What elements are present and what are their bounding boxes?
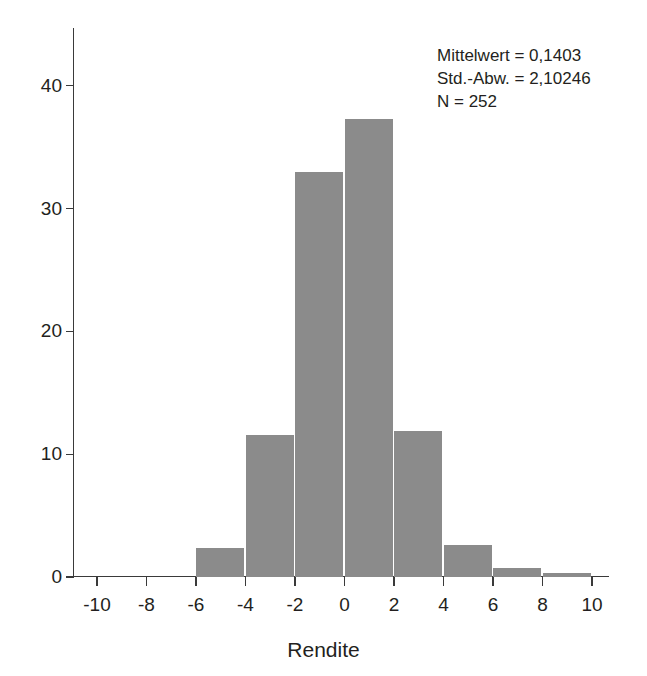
- x-axis-tick: [195, 577, 196, 586]
- x-axis-tick: [146, 577, 147, 586]
- y-axis-tick-label: 40: [41, 76, 62, 95]
- x-axis-tick-label: -10: [83, 594, 110, 616]
- x-axis-tick: [245, 577, 246, 586]
- y-axis-tick: [66, 208, 74, 209]
- histogram-bar: [345, 119, 393, 577]
- y-axis-tick-label: 0: [51, 567, 62, 586]
- std-dev-label: Std.-Abw. = 2,10246: [437, 67, 591, 90]
- x-axis-tick: [591, 577, 592, 586]
- x-axis-tick-label: 8: [537, 594, 548, 616]
- x-axis-tick-label: -4: [237, 594, 254, 616]
- x-axis-tick: [393, 577, 394, 586]
- histogram-bar: [196, 548, 244, 577]
- x-axis-tick: [344, 577, 345, 586]
- histogram-bar: [493, 568, 541, 577]
- y-axis-tick-label: 10: [41, 444, 62, 463]
- histogram-bar: [246, 435, 294, 577]
- histogram-bar: [543, 573, 591, 577]
- histogram-bar: [394, 431, 442, 577]
- x-axis-tick: [542, 577, 543, 586]
- statistics-annotation: Mittelwert = 0,1403 Std.-Abw. = 2,10246 …: [437, 44, 591, 113]
- x-axis-tick: [294, 577, 295, 586]
- x-axis-tick-label: -8: [138, 594, 155, 616]
- y-axis-tick: [66, 576, 74, 577]
- x-axis-tick-label: 4: [438, 594, 449, 616]
- y-axis-line: [73, 28, 74, 578]
- histogram-bar: [444, 545, 492, 577]
- histogram-bar: [295, 172, 343, 577]
- y-axis-tick: [66, 331, 74, 332]
- x-axis-tick-label: 10: [581, 594, 602, 616]
- sample-size-label: N = 252: [437, 90, 591, 113]
- x-axis-tick: [492, 577, 493, 586]
- mean-label: Mittelwert = 0,1403: [437, 44, 591, 67]
- x-axis-tick-label: -6: [188, 594, 205, 616]
- histogram-chart: 010203040 -10-8-6-4-20246810 Rendite Mit…: [0, 0, 647, 676]
- x-axis-tick: [443, 577, 444, 586]
- y-axis-tick-label: 20: [41, 321, 62, 340]
- x-axis-tick-label: 2: [389, 594, 400, 616]
- x-axis-tick: [96, 577, 97, 586]
- y-axis-tick: [66, 454, 74, 455]
- x-axis-tick-label: -2: [287, 594, 304, 616]
- y-axis-tick-label: 30: [41, 199, 62, 218]
- x-axis-title: Rendite: [0, 638, 647, 662]
- x-axis-tick-label: 6: [488, 594, 499, 616]
- y-axis-tick: [66, 85, 74, 86]
- x-axis-tick-label: 0: [339, 594, 350, 616]
